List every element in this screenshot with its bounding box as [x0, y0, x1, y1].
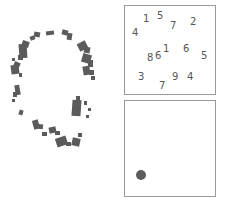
- fragment-blob: [91, 76, 95, 80]
- fragment-blob: [76, 96, 80, 102]
- fragment-blob: [19, 73, 22, 77]
- diagram-canvas: 15724165863947: [0, 0, 227, 206]
- digit-label: 6: [155, 51, 161, 61]
- fragment-blob: [34, 32, 41, 38]
- fragment-blob: [66, 142, 71, 146]
- digit-label: 9: [172, 72, 178, 82]
- fragment-blob: [78, 133, 82, 137]
- marker-dot: [136, 170, 146, 180]
- fragmented-circle-glyph: [0, 0, 120, 206]
- fragment-blob: [18, 110, 23, 116]
- fragment-blob: [18, 55, 23, 60]
- digit-label: 7: [170, 21, 176, 31]
- fragment-blob: [89, 70, 94, 75]
- fragment-blob: [71, 137, 80, 146]
- fragment-blob: [71, 100, 81, 117]
- digit-label: 5: [201, 51, 207, 61]
- digit-label: 2: [190, 17, 196, 27]
- fragment-blob: [67, 33, 73, 41]
- fragment-blob: [84, 101, 87, 105]
- fragment-blob: [42, 132, 47, 136]
- digit-label: 7: [159, 81, 165, 91]
- dot-panel: [124, 100, 216, 197]
- digit-label: 8: [147, 53, 153, 63]
- digit-label: 4: [132, 28, 138, 38]
- digits-panel: 15724165863947: [124, 5, 216, 95]
- digit-label: 1: [143, 14, 149, 24]
- fragment-blob: [13, 92, 17, 97]
- fragment-blob: [36, 124, 43, 130]
- fragment-blob: [46, 31, 54, 36]
- digit-label: 6: [183, 44, 189, 54]
- fragment-blob: [55, 131, 60, 135]
- digit-label: 1: [163, 44, 169, 54]
- digit-label: 4: [187, 72, 193, 82]
- fragment-blob: [12, 99, 15, 102]
- fragment-blob: [88, 108, 91, 111]
- digit-label: 5: [157, 11, 163, 21]
- fragment-blob: [86, 115, 89, 118]
- digit-label: 3: [138, 72, 144, 82]
